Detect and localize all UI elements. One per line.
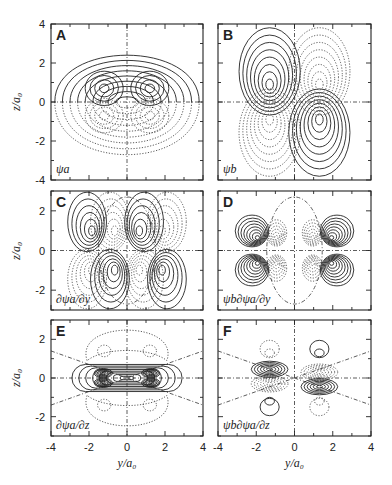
z-tick-label: -2: [35, 135, 45, 147]
z-tick-label: -4: [35, 174, 45, 186]
panel-letter-F: F: [223, 323, 232, 339]
z-tick-label: 2: [39, 205, 45, 217]
z-axis-title: z/a₀: [9, 93, 24, 111]
z-tick-label: -2: [35, 411, 45, 423]
x-axis-title: y/a₀: [285, 456, 304, 471]
z-tick-label: 4: [39, 18, 45, 30]
x-tick-label: 4: [200, 441, 206, 453]
panel-letter-A: A: [56, 27, 66, 43]
panel-function-D: ψb∂ψa/∂y: [223, 292, 270, 307]
x-tick-label: 2: [330, 441, 336, 453]
panel-letter-D: D: [223, 194, 233, 210]
x-tick-label: 4: [368, 441, 374, 453]
panel-function-C: ∂ψa/∂y: [56, 292, 90, 307]
z-tick-label: 0: [39, 96, 45, 108]
x-tick-label: 0: [124, 441, 130, 453]
x-tick-label: -4: [213, 441, 223, 453]
z-axis-title: z/a₀: [9, 241, 24, 259]
x-tick-label: 0: [291, 441, 297, 453]
panel-B: [218, 24, 371, 180]
panel-function-B: ψb: [223, 162, 236, 177]
z-tick-label: 0: [39, 372, 45, 384]
x-tick-label: -4: [46, 441, 56, 453]
panel-letter-E: E: [56, 323, 65, 339]
panel-function-A: ψa: [56, 162, 69, 177]
x-tick-label: -2: [84, 441, 94, 453]
panel-letter-C: C: [56, 194, 66, 210]
z-tick-label: 2: [39, 333, 45, 345]
x-tick-label: -2: [251, 441, 261, 453]
figure-canvas: [0, 0, 392, 485]
panel-function-F: ψb∂ψa/∂z: [223, 418, 270, 433]
x-tick-label: 2: [162, 441, 168, 453]
z-tick-label: 2: [39, 57, 45, 69]
panel-function-E: ∂ψa/∂z: [56, 418, 89, 433]
z-tick-label: 0: [39, 245, 45, 257]
x-axis-title: y/a₀: [118, 456, 137, 471]
z-axis-title: z/a₀: [9, 369, 24, 387]
panel-letter-B: B: [223, 27, 233, 43]
panel-A: [51, 24, 203, 180]
z-tick-label: -2: [35, 284, 45, 296]
